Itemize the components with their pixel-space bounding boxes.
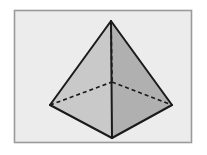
figure-container: Square pyramid wireframe illustration	[0, 0, 207, 155]
pyramid-figure-svg: Square pyramid wireframe illustration	[0, 0, 207, 155]
edge-apex-front	[111, 21, 112, 138]
